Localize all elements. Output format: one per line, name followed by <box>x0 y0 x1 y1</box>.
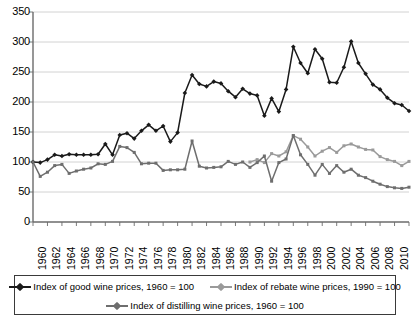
legend-marker-good-wine-icon <box>9 282 31 292</box>
data-point-distilling-wine <box>89 167 92 170</box>
data-point-distilling-wine <box>147 162 150 165</box>
legend-row-primary: Index of good wine prices, 1960 = 100 In… <box>15 277 395 296</box>
plot-area <box>0 0 413 232</box>
data-point-distilling-wine <box>328 172 331 175</box>
data-point-distilling-wine <box>321 163 324 166</box>
data-point-distilling-wine <box>263 155 266 158</box>
x-tick-label: 1960 <box>37 247 48 270</box>
x-tick-label: 1984 <box>211 247 222 270</box>
legend-entry-good-wine: Index of good wine prices, 1960 = 100 <box>9 282 194 292</box>
data-point-distilling-wine <box>97 162 100 165</box>
x-tick-label: 2006 <box>370 247 381 270</box>
data-point-rebate-wine <box>248 161 251 164</box>
x-tick-label: 1986 <box>225 247 236 270</box>
data-point-good-wine <box>284 87 289 92</box>
data-point-distilling-wine <box>118 145 121 148</box>
chart-legend: Index of good wine prices, 1960 = 100 In… <box>14 275 396 315</box>
data-point-rebate-wine <box>277 155 280 158</box>
data-point-rebate-wine <box>285 150 288 153</box>
y-tick-label: 300 <box>0 36 30 47</box>
data-point-good-wine <box>255 93 260 98</box>
wine-price-index-chart: 350300250200150100500 196019621964196619… <box>0 0 413 323</box>
legend-marker-distilling-wine-icon <box>106 301 128 311</box>
data-point-rebate-wine <box>393 160 396 163</box>
x-tick-label: 1964 <box>66 247 77 270</box>
data-point-distilling-wine <box>408 186 411 189</box>
x-tick-label: 1980 <box>182 247 193 270</box>
data-point-distilling-wine <box>342 171 345 174</box>
data-point-rebate-wine <box>328 146 331 149</box>
x-tick-label: 1978 <box>167 247 178 270</box>
data-point-distilling-wine <box>270 180 273 183</box>
data-point-distilling-wine <box>241 161 244 164</box>
x-tick-label: 2004 <box>355 247 366 270</box>
data-point-rebate-wine <box>350 143 353 146</box>
data-point-distilling-wine <box>234 163 237 166</box>
data-point-distilling-wine <box>133 151 136 154</box>
legend-label-good-wine: Index of good wine prices, 1960 = 100 <box>33 282 194 292</box>
data-point-rebate-wine <box>321 150 324 153</box>
data-point-good-wine <box>183 91 188 96</box>
legend-row-secondary: Index of distilling wine prices, 1960 = … <box>15 296 395 315</box>
data-point-good-wine <box>60 154 65 159</box>
x-tick-label: 1968 <box>95 247 106 270</box>
data-point-distilling-wine <box>111 160 114 163</box>
x-tick-label: 1994 <box>283 247 294 270</box>
data-point-rebate-wine <box>335 151 338 154</box>
data-point-distilling-wine <box>191 140 194 143</box>
y-axis-ticks: 350300250200150100500 <box>0 0 30 232</box>
data-point-distilling-wine <box>205 167 208 170</box>
data-point-distilling-wine <box>292 134 295 137</box>
data-point-rebate-wine <box>400 164 403 167</box>
data-point-distilling-wine <box>53 164 56 167</box>
data-point-good-wine <box>89 153 94 158</box>
chart-canvas <box>0 0 413 232</box>
data-point-distilling-wine <box>364 176 367 179</box>
data-point-good-wine <box>334 81 339 86</box>
y-tick-label: 250 <box>0 66 30 77</box>
data-point-distilling-wine <box>162 169 165 172</box>
data-point-distilling-wine <box>285 158 288 161</box>
x-tick-label: 2000 <box>326 247 337 270</box>
x-tick-label: 1982 <box>196 247 207 270</box>
data-point-good-wine <box>349 39 354 44</box>
x-tick-label: 2010 <box>399 247 410 270</box>
data-point-distilling-wine <box>183 168 186 171</box>
data-point-rebate-wine <box>270 152 273 155</box>
data-point-distilling-wine <box>306 163 309 166</box>
data-point-distilling-wine <box>335 164 338 167</box>
legend-label-distilling-wine: Index of distilling wine prices, 1960 = … <box>130 301 303 311</box>
data-point-distilling-wine <box>154 162 157 165</box>
x-tick-label: 1988 <box>239 247 250 270</box>
x-tick-label: 1972 <box>124 247 135 270</box>
data-point-distilling-wine <box>248 166 251 169</box>
data-point-distilling-wine <box>386 185 389 188</box>
y-tick-label: 50 <box>0 186 30 197</box>
y-tick-label: 350 <box>0 6 30 17</box>
legend-entry-rebate-wine: Index of rebate wine prices, 1990 = 100 <box>210 282 401 292</box>
x-tick-label: 1962 <box>51 247 62 270</box>
x-tick-label: 1974 <box>138 247 149 270</box>
data-point-distilling-wine <box>350 168 353 171</box>
data-point-good-wine <box>117 133 122 138</box>
gridlines <box>33 12 409 192</box>
data-point-rebate-wine <box>342 144 345 147</box>
legend-label-rebate-wine: Index of rebate wine prices, 1990 = 100 <box>234 282 401 292</box>
data-point-distilling-wine <box>176 168 179 171</box>
legend-marker-rebate-wine-icon <box>210 282 232 292</box>
y-tick-label: 100 <box>0 156 30 167</box>
data-point-distilling-wine <box>32 161 35 164</box>
data-point-distilling-wine <box>227 160 230 163</box>
data-point-rebate-wine <box>314 155 317 158</box>
data-point-rebate-wine <box>364 148 367 151</box>
x-tick-label: 1990 <box>254 247 265 270</box>
data-point-distilling-wine <box>371 180 374 183</box>
data-point-distilling-wine <box>400 187 403 190</box>
data-point-good-wine <box>291 45 296 50</box>
data-point-distilling-wine <box>393 186 396 189</box>
data-point-distilling-wine <box>75 170 78 173</box>
data-point-rebate-wine <box>357 146 360 149</box>
x-tick-label: 1998 <box>312 247 323 270</box>
data-point-good-wine <box>342 65 347 70</box>
data-point-distilling-wine <box>140 162 143 165</box>
